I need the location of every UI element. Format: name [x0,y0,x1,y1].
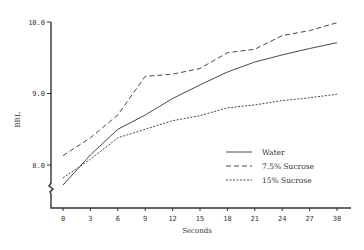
series-line-7-5-sucrose [63,23,337,156]
legend: Water7.5% Sucrose15% Sucrose [226,148,315,185]
x-tick-label: 12 [168,215,176,223]
x-tick-label: 9 [143,215,147,223]
x-tick-label: 24 [278,215,286,223]
y-axis-label: BRL [14,112,22,127]
legend-label: Water [262,148,285,157]
x-tick-label: 27 [305,215,313,223]
x-axis: 036912151821242730 [61,208,341,223]
x-tick-label: 6 [116,215,120,223]
y-tick-label: 10.0 [28,19,45,27]
x-tick-label: 21 [251,215,259,223]
x-tick-label: 30 [333,215,341,223]
legend-label: 15% Sucrose [262,176,312,185]
x-tick-label: 0 [61,215,65,223]
x-tick-label: 18 [223,215,231,223]
x-axis-label: Seconds [182,227,212,235]
x-tick-label: 15 [196,215,204,223]
y-tick-label: 8.0 [32,162,45,170]
line-chart: 8.09.010.0 036912151821242730 Water7.5% … [0,0,364,250]
x-tick-label: 3 [88,215,92,223]
legend-label: 7.5% Sucrose [262,162,315,171]
y-tick-label: 9.0 [32,90,45,98]
